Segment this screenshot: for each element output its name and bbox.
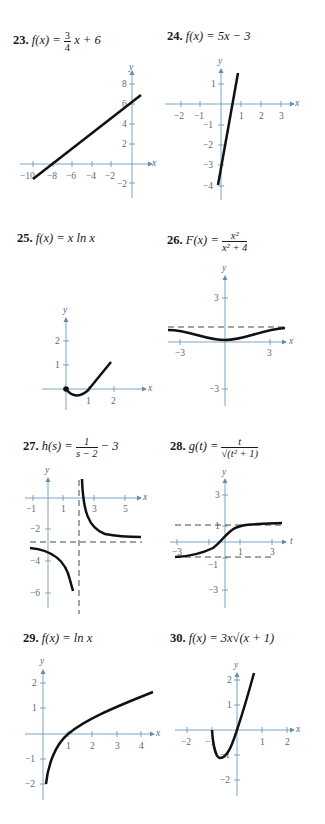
equation-rhs: − 3 (101, 439, 119, 453)
fraction-numerator: t (221, 436, 257, 448)
svg-text:1: 1 (227, 700, 232, 710)
svg-text:−4: −4 (203, 181, 213, 191)
equation-lhs: f(x) = (32, 33, 61, 47)
function-curve (212, 673, 254, 758)
problem-number: 30. (170, 631, 186, 645)
svg-text:−1: −1 (203, 120, 213, 130)
fraction-denominator: x² + 4 (222, 242, 247, 253)
svg-text:−1: −1 (208, 560, 218, 570)
svg-text:y: y (39, 656, 45, 666)
problem-number: 25. (17, 231, 33, 245)
svg-text:1: 1 (211, 79, 216, 89)
problem-26-label: 26. F(x) = x²x² + 4 (167, 230, 247, 253)
svg-text:y: y (44, 465, 50, 475)
svg-text:3: 3 (115, 741, 120, 751)
svg-text:−6: −6 (66, 171, 76, 181)
svg-text:−4: −4 (86, 171, 96, 181)
svg-text:1: 1 (55, 360, 60, 370)
fraction: 34 (64, 30, 71, 53)
svg-text:x: x (147, 383, 153, 393)
problem-number: 27. (23, 439, 39, 453)
problem-number: 26. (167, 233, 183, 247)
axes (25, 669, 155, 800)
axes (165, 68, 295, 200)
endpoint-dot (63, 386, 69, 392)
svg-text:x: x (288, 336, 294, 346)
equation-rhs: x + 6 (74, 33, 100, 47)
function-curve (46, 692, 153, 784)
svg-text:1: 1 (86, 396, 91, 406)
svg-text:1: 1 (215, 521, 220, 531)
svg-text:2: 2 (55, 336, 60, 346)
svg-text:1: 1 (66, 741, 71, 751)
svg-text:y: y (62, 305, 68, 315)
svg-text:2: 2 (90, 741, 95, 751)
svg-text:2: 2 (259, 111, 264, 121)
fraction-denominator: 4 (64, 42, 71, 53)
fraction-numerator: 3 (64, 30, 71, 42)
graph-24: −2−1123 1−1−2−3−4 xy (160, 55, 325, 205)
arrow-right-icon (282, 340, 287, 345)
svg-text:1: 1 (238, 547, 243, 557)
arrow-right-icon (150, 732, 155, 737)
svg-text:x: x (142, 492, 148, 502)
problem-number: 24. (167, 29, 183, 43)
svg-text:y: y (217, 56, 223, 66)
svg-text:−8: −8 (47, 171, 57, 181)
svg-text:−10: −10 (20, 171, 35, 181)
fraction: x²x² + 4 (222, 230, 247, 253)
equation-lhs: f(x) = x ln x (36, 231, 95, 245)
fraction: t√(t² + 1) (221, 436, 257, 459)
function-curve-right (82, 479, 141, 537)
svg-text:−3: −3 (209, 384, 219, 394)
equation-lhs: F(x) = (186, 233, 219, 247)
problem-27-label: 27. h(s) = 1s − 2 − 3 (23, 436, 118, 459)
graph-25: 12 12 xy (0, 300, 165, 410)
svg-text:−3: −3 (203, 160, 213, 170)
problem-23-label: 23. f(x) = 34 x + 6 (13, 30, 101, 53)
svg-text:2: 2 (285, 737, 290, 747)
graph-29: 1234 21−1−2 xy (0, 650, 165, 815)
graph-23: −10−8−6−4−2 −22468 xy (0, 55, 165, 205)
graph-28: −313 31−1−3 ty (160, 470, 325, 620)
svg-text:−1: −1 (26, 504, 36, 514)
svg-text:3: 3 (279, 111, 284, 121)
svg-text:2: 2 (227, 675, 232, 685)
svg-text:5: 5 (123, 504, 128, 514)
function-curve (175, 523, 282, 557)
arrow-up-icon (223, 478, 228, 483)
svg-text:t: t (290, 536, 293, 546)
problem-number: 23. (13, 33, 29, 47)
svg-text:1: 1 (260, 737, 265, 747)
svg-text:4: 4 (139, 741, 144, 751)
fraction-numerator: x² (222, 230, 247, 242)
svg-text:−2: −2 (117, 179, 127, 189)
svg-text:−2: −2 (181, 737, 191, 747)
arrow-right-icon (290, 728, 295, 733)
equation-lhs: f(x) = 3x√(x + 1) (189, 631, 275, 645)
arrow-right-icon (137, 496, 142, 501)
svg-text:−1: −1 (25, 754, 35, 764)
problem-24-label: 24. f(x) = 5x − 3 (167, 30, 251, 43)
svg-text:2: 2 (32, 678, 37, 688)
arrow-up-icon (41, 669, 46, 674)
fraction: 1s − 2 (76, 436, 98, 459)
svg-text:y: y (233, 660, 239, 670)
equation-lhs: h(s) = (42, 439, 73, 453)
svg-text:y: y (221, 263, 227, 273)
function-curve (33, 95, 141, 179)
svg-text:−2: −2 (174, 111, 184, 121)
svg-text:3: 3 (267, 348, 272, 358)
svg-text:−2: −2 (30, 524, 40, 534)
graph-27: −1135 −2−4−6 xy (0, 470, 165, 620)
svg-text:3: 3 (92, 504, 97, 514)
svg-text:4: 4 (122, 119, 127, 129)
svg-text:x: x (151, 158, 157, 168)
equation-lhs: g(t) = (189, 439, 219, 453)
svg-text:3: 3 (215, 490, 220, 500)
problem-number: 28. (170, 439, 186, 453)
svg-text:1: 1 (32, 703, 37, 713)
svg-text:x: x (294, 98, 300, 108)
svg-text:−4: −4 (30, 556, 40, 566)
fraction-denominator: √(t² + 1) (221, 448, 257, 459)
